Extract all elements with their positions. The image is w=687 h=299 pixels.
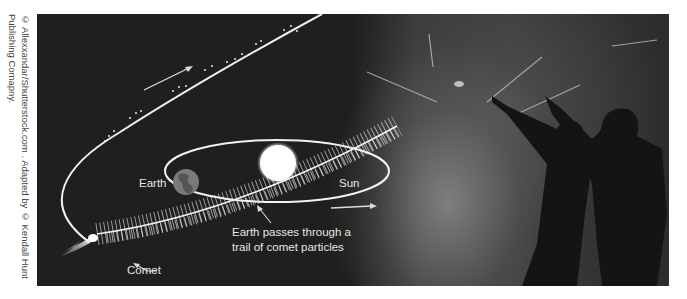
diagram-graphics [37, 14, 669, 286]
earth [173, 169, 199, 195]
annotation-line-1: Earth passes through a [232, 225, 351, 239]
comet-label: Comet [127, 263, 161, 277]
sun-label: Sun [339, 176, 359, 190]
direction-arrow-lower [331, 206, 372, 208]
comet-orbit [62, 14, 322, 242]
direction-arrow-upper [144, 68, 189, 90]
comet [57, 234, 98, 258]
meteor-streaks [367, 34, 657, 114]
earth-label: Earth [139, 176, 167, 190]
annotation-line-2: trail of comet particles [232, 240, 344, 254]
photo-credit: © Allexxandar/Shutterstock.com . Adapted… [2, 14, 32, 286]
people-silhouettes [492, 96, 667, 286]
bright-star [454, 81, 464, 87]
meteor-shower-diagram: Earth Sun Comet Earth passes through a t… [37, 14, 669, 286]
